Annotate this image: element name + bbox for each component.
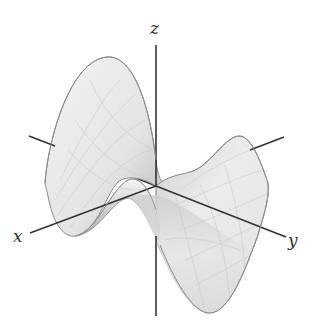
x-axis-label: x xyxy=(13,228,23,245)
saddle-surface-diagram: z x y xyxy=(0,0,317,333)
surface-plot xyxy=(0,0,317,333)
y-axis-label: y xyxy=(288,232,298,249)
x-axis-far xyxy=(250,137,284,150)
z-axis-label: z xyxy=(150,20,159,37)
